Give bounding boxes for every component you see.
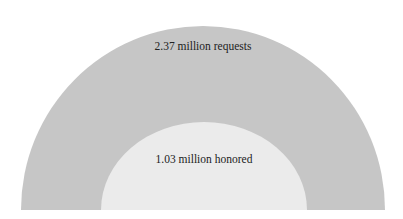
nested-semicircle-chart: 2.37 million requests 1.03 million honor… [0,0,403,219]
honored-label: 1.03 million honored [156,153,253,165]
requests-label: 2.37 million requests [155,40,252,53]
